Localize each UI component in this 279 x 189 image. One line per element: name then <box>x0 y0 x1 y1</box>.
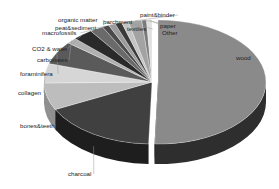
slice-label: CO2 & water <box>32 45 67 52</box>
pie-chart: woodcharcoalbones&teethcollagenforaminif… <box>0 0 279 189</box>
slice-label: Other <box>162 29 177 36</box>
slice-label: textiles <box>127 25 146 32</box>
slice-label: foraminifera <box>20 70 53 77</box>
slice-label: collagen <box>18 89 42 96</box>
slice-label: wood <box>235 54 251 61</box>
slice-label: carbonates <box>37 56 68 63</box>
slice-label: organic matter <box>58 16 98 23</box>
slice-label: peat&sediment <box>55 24 97 31</box>
pie-slices <box>44 20 266 144</box>
slice-label: paint&binder <box>140 11 175 18</box>
slice-label: charcoal <box>68 170 91 177</box>
slice-label: paper <box>160 22 176 29</box>
slice-label: bones&teeth <box>20 122 55 129</box>
slice-label: parchment <box>103 18 133 25</box>
